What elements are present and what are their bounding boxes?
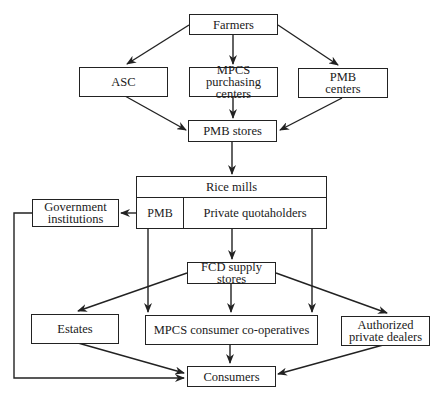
node-farmers-label: Farmers (213, 19, 254, 31)
node-mpcs-consumer-cooperatives: MPCS consumer co-operatives (145, 315, 318, 345)
node-authorized-dealers-label: Authorized private dealers (344, 319, 427, 343)
node-fcd-supply-stores: FCD supply stores (187, 262, 276, 284)
node-farmers: Farmers (189, 14, 278, 35)
node-pmb-centers: PMB centers (298, 68, 388, 98)
node-mpcs-purchasing-centers: MPCS purchasing centers (189, 67, 278, 97)
node-fcd-supply-stores-label: FCD supply stores (190, 261, 273, 285)
node-consumers: Consumers (187, 366, 276, 387)
rice-mills-private-quotaholders-cell: Private quotaholders (184, 198, 326, 228)
node-asc: ASC (79, 67, 168, 97)
node-asc-label: ASC (111, 76, 135, 88)
node-pmb-stores-label: PMB stores (203, 125, 262, 137)
rice-mills-pmb-cell: PMB (137, 198, 184, 228)
node-estates-label: Estates (57, 323, 92, 335)
node-mpcs-consumer-label: MPCS consumer co-operatives (154, 324, 310, 336)
node-government-institutions-label: Government institutions (43, 201, 108, 225)
node-rice-mills: Rice mills PMB Private quotaholders (136, 176, 327, 229)
node-pmb-centers-label: PMB centers (319, 71, 367, 95)
rice-mills-title: Rice mills (137, 177, 326, 198)
node-government-institutions: Government institutions (32, 199, 119, 227)
node-pmb-stores: PMB stores (188, 120, 277, 142)
node-authorized-private-dealers: Authorized private dealers (341, 316, 430, 346)
node-mpcs-purchasing-label: MPCS purchasing centers (192, 64, 275, 100)
node-consumers-label: Consumers (203, 371, 259, 383)
node-estates: Estates (31, 314, 119, 344)
